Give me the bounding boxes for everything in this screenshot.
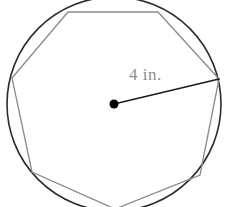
center-point-dot <box>110 100 119 109</box>
figure-canvas: 4 in. <box>0 0 233 207</box>
geometry-figure: 4 in. <box>0 0 233 207</box>
radius-length-label: 4 in. <box>129 65 162 84</box>
inscribed-heptagon <box>12 12 219 207</box>
